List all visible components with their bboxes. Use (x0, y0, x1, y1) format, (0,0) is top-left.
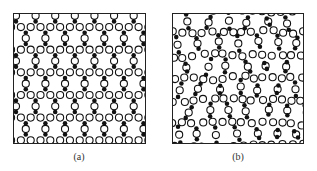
network-diagram-a (14, 14, 145, 143)
caption-b: (b) (218, 150, 258, 164)
caption-a: (a) (59, 150, 99, 164)
panel-a-crystalline-network (13, 13, 146, 144)
network-diagram-b (173, 14, 303, 143)
panel-b-amorphous-network (172, 13, 304, 144)
bridge-atoms (173, 14, 303, 143)
network-atoms (14, 14, 145, 143)
